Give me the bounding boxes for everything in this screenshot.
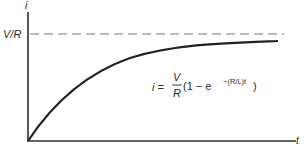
equation-body: (1 − e — [183, 80, 211, 92]
equation-lhs: i = — [152, 81, 165, 93]
asymptote-label: V/R — [3, 28, 21, 40]
equation-exponent: −(R/L)t — [223, 77, 247, 86]
equation: i = V R (1 − e −(R/L)t ) — [152, 71, 257, 99]
equation-close: ) — [253, 80, 257, 92]
equation-denominator: R — [173, 87, 181, 99]
equation-numerator: V — [173, 71, 182, 83]
diagram-canvas: i V/R t i = V R (1 − e −(R/L)t ) — [0, 0, 307, 144]
x-axis-label: t — [296, 135, 300, 144]
y-axis-label: i — [25, 0, 28, 11]
